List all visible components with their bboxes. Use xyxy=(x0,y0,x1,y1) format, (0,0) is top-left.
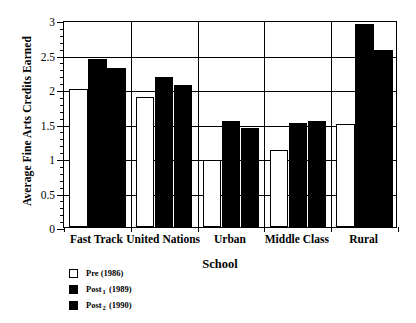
y-tick xyxy=(57,126,64,127)
y-minor-tick xyxy=(60,208,64,209)
y-axis-title: Average Fine Arts Credits Earned xyxy=(21,9,33,234)
group-separator-gridline xyxy=(331,22,332,227)
y-tick-label: 3 xyxy=(49,16,55,28)
y-minor-tick xyxy=(60,50,64,51)
x-tick xyxy=(131,227,132,232)
y-tick-label: 0 xyxy=(49,223,55,235)
bar xyxy=(241,128,260,227)
y-minor-tick xyxy=(60,112,64,113)
y-tick-label: 0.5 xyxy=(41,189,55,201)
x-tick-label: Urban xyxy=(214,233,246,245)
y-tick xyxy=(57,160,64,161)
y-minor-tick xyxy=(60,215,64,216)
bar xyxy=(107,68,126,227)
y-minor-tick xyxy=(60,36,64,37)
legend-item: Post2 (1990) xyxy=(69,297,219,313)
y-minor-tick xyxy=(60,139,64,140)
group-separator-gridline xyxy=(131,22,132,227)
legend-item: Post1 (1989) xyxy=(69,281,219,297)
y-minor-tick xyxy=(60,167,64,168)
y-tick xyxy=(57,229,64,230)
x-tick-label: Rural xyxy=(349,233,378,245)
y-minor-tick xyxy=(60,43,64,44)
y-minor-tick xyxy=(60,181,64,182)
y-minor-tick xyxy=(60,105,64,106)
legend-swatch-icon xyxy=(69,269,78,278)
bar xyxy=(289,123,308,227)
y-minor-tick xyxy=(60,201,64,202)
y-minor-tick xyxy=(60,119,64,120)
y-minor-tick xyxy=(60,132,64,133)
bar xyxy=(308,121,327,227)
legend-label: Post2 (1990) xyxy=(86,300,132,310)
x-tick xyxy=(264,227,265,232)
x-tick xyxy=(64,227,65,232)
bar xyxy=(88,59,107,227)
bar xyxy=(136,97,155,227)
bar xyxy=(174,85,193,227)
group-separator-gridline xyxy=(198,22,199,227)
legend-item: Pre (1986) xyxy=(69,265,219,281)
bar xyxy=(203,160,222,227)
y-minor-tick xyxy=(60,146,64,147)
x-tick-label: Middle Class xyxy=(265,233,329,245)
chart-legend: Pre (1986)Post1 (1989)Post2 (1990) xyxy=(69,265,219,313)
bar xyxy=(336,124,355,228)
y-tick-label: 2.5 xyxy=(41,51,55,63)
y-minor-tick xyxy=(60,29,64,30)
y-minor-tick xyxy=(60,70,64,71)
y-minor-tick xyxy=(60,63,64,64)
y-minor-tick xyxy=(60,222,64,223)
bar xyxy=(69,89,88,227)
bar xyxy=(222,121,241,227)
bar-chart-figure: Average Fine Arts Credits Earned 00.511.… xyxy=(0,0,416,323)
y-minor-tick xyxy=(60,84,64,85)
y-minor-tick xyxy=(60,153,64,154)
bar xyxy=(355,24,374,227)
bar xyxy=(374,50,393,227)
y-tick xyxy=(57,195,64,196)
x-tick xyxy=(398,227,399,232)
legend-swatch-icon xyxy=(69,285,78,294)
y-tick-label: 1.5 xyxy=(41,120,55,132)
y-minor-tick xyxy=(60,174,64,175)
y-gridline xyxy=(64,57,396,58)
y-minor-tick xyxy=(60,77,64,78)
x-tick-label: Fast Track xyxy=(70,233,123,245)
y-tick xyxy=(57,91,64,92)
y-minor-tick xyxy=(60,98,64,99)
legend-label: Pre (1986) xyxy=(86,268,123,278)
y-minor-tick xyxy=(60,188,64,189)
y-tick-label: 1 xyxy=(49,154,55,166)
y-tick xyxy=(57,22,64,23)
bar xyxy=(270,150,289,227)
x-tick xyxy=(198,227,199,232)
plot-area: 00.511.522.53 xyxy=(63,21,397,228)
x-tick xyxy=(331,227,332,232)
bar xyxy=(155,77,174,227)
y-tick xyxy=(57,57,64,58)
group-separator-gridline xyxy=(264,22,265,227)
y-tick-label: 2 xyxy=(49,85,55,97)
legend-label: Post1 (1989) xyxy=(86,284,132,294)
legend-swatch-icon xyxy=(69,301,78,310)
x-tick-label: United Nations xyxy=(126,233,200,245)
